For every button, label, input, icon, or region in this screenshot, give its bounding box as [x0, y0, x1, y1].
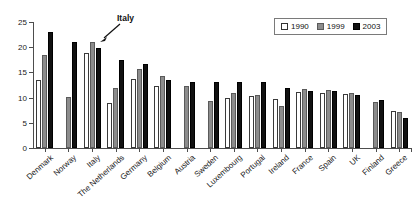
- x-axis-category-label: Ireland: [267, 153, 291, 176]
- legend-label-1999: 1999: [327, 22, 345, 31]
- x-axis-category-label: Norway: [52, 153, 78, 178]
- bar: [113, 88, 118, 148]
- bar: [261, 82, 266, 148]
- x-axis-category-label: Portugal: [239, 153, 267, 180]
- bar: [131, 79, 136, 148]
- bar-group: [296, 22, 313, 148]
- black-square-swatch: [353, 23, 360, 30]
- bar: [96, 48, 101, 148]
- bar: [66, 97, 71, 148]
- bar: [296, 92, 301, 148]
- bar: [137, 69, 142, 148]
- bar-group: [320, 22, 337, 148]
- x-axis-tick: [92, 148, 93, 152]
- x-axis-tick: [187, 148, 188, 152]
- y-axis-tick-label: 25: [18, 18, 27, 27]
- bar: [231, 93, 236, 148]
- bar: [154, 86, 159, 148]
- x-axis-tick: [328, 148, 329, 152]
- legend-item-1999: 1999: [317, 22, 345, 31]
- x-axis-tick: [257, 148, 258, 152]
- y-axis-tick: [29, 123, 33, 124]
- bar: [403, 118, 408, 148]
- x-axis-tick: [305, 148, 306, 152]
- bar: [48, 32, 53, 148]
- x-axis-tick: [45, 148, 46, 152]
- y-axis-tick-label: 20: [18, 43, 27, 52]
- bar: [90, 42, 95, 148]
- bar-group: [249, 22, 266, 148]
- bar: [255, 95, 260, 148]
- bar: [72, 42, 77, 148]
- bar: [166, 80, 171, 148]
- bar: [225, 98, 230, 148]
- bar-group: [131, 22, 148, 148]
- legend-item-2003: 2003: [353, 22, 381, 31]
- y-axis-tick-label: 15: [18, 68, 27, 77]
- annotation-arrow-icon: [98, 22, 122, 44]
- x-axis-category-label: Belgium: [145, 153, 173, 179]
- bar-group: [60, 22, 77, 148]
- y-axis-tick: [29, 72, 33, 73]
- bar-group: [273, 22, 290, 148]
- bar: [349, 93, 354, 148]
- bar-group: [178, 22, 195, 148]
- x-axis-tick: [234, 148, 235, 152]
- bar: [84, 53, 89, 148]
- bar: [379, 100, 384, 148]
- y-axis-tick: [29, 22, 33, 23]
- bar: [302, 89, 307, 148]
- bar: [343, 94, 348, 148]
- x-axis-tick: [163, 148, 164, 152]
- bar: [391, 111, 396, 148]
- y-axis-tick-label: 10: [18, 93, 27, 102]
- legend-label-1990: 1990: [291, 22, 309, 31]
- bar: [143, 64, 148, 148]
- x-axis-tick: [139, 148, 140, 152]
- bar: [190, 82, 195, 148]
- x-axis-tick: [376, 148, 377, 152]
- x-axis-tick: [399, 148, 400, 152]
- bar: [107, 103, 112, 148]
- bar-group: [367, 22, 384, 148]
- bar-group: [36, 22, 53, 148]
- bar: [355, 95, 360, 148]
- x-axis-tick: [281, 148, 282, 152]
- bar-group: [343, 22, 360, 148]
- legend-label-2003: 2003: [363, 22, 381, 31]
- bar: [160, 76, 165, 148]
- bar: [36, 80, 41, 148]
- legend-item-1990: 1990: [281, 22, 309, 31]
- x-axis-category-label: Spain: [317, 153, 338, 173]
- x-axis-category-label: UK: [348, 153, 362, 167]
- gray-square-swatch: [317, 23, 324, 30]
- x-axis-category-label: Italy: [85, 153, 102, 170]
- x-axis-tick: [116, 148, 117, 152]
- bar: [208, 101, 213, 148]
- y-axis-tick: [29, 148, 33, 149]
- y-axis-tick-label: 5: [23, 118, 27, 127]
- bar: [273, 99, 278, 148]
- bar: [42, 55, 47, 148]
- bar-group: [154, 22, 171, 148]
- y-axis-tick-label: 0: [23, 144, 27, 153]
- x-axis-tick: [68, 148, 69, 152]
- bar: [279, 106, 284, 148]
- bar: [326, 90, 331, 148]
- bar: [237, 82, 242, 148]
- plot-area: 0510152025: [33, 22, 411, 148]
- bar: [308, 91, 313, 148]
- bar-group: [225, 22, 242, 148]
- bar: [119, 60, 124, 148]
- x-axis-category-label: France: [290, 153, 315, 176]
- bar: [285, 88, 290, 148]
- bar: [214, 82, 219, 148]
- bar-group: [202, 22, 219, 148]
- x-axis-tick: [352, 148, 353, 152]
- white-square-swatch: [281, 23, 288, 30]
- x-axis-line: [33, 148, 411, 149]
- bar: [332, 91, 337, 148]
- legend: 1990 1999 2003: [274, 18, 387, 35]
- bar: [320, 93, 325, 148]
- x-axis-tick: [210, 148, 211, 152]
